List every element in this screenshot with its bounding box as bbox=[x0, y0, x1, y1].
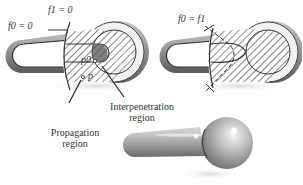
interpenetration-line2: region bbox=[92, 112, 192, 123]
label-f1-zero: f1 = 0 bbox=[48, 4, 73, 15]
diagram-canvas bbox=[0, 0, 302, 185]
right-shape bbox=[160, 21, 303, 92]
interpenetration-region-label: Interpenetration region bbox=[92, 101, 192, 123]
propagation-region-label: Propagation region bbox=[30, 127, 120, 149]
blended-result bbox=[123, 117, 253, 180]
label-p: p bbox=[88, 70, 93, 81]
label-f0-eq-f1: f0 = f1 bbox=[178, 13, 205, 24]
label-f0-zero: f0 = 0 bbox=[8, 20, 33, 31]
left-shape bbox=[6, 21, 150, 103]
propagation-line1: Propagation bbox=[30, 127, 120, 138]
interpenetration-line1: Interpenetration bbox=[92, 101, 192, 112]
label-p0: p0 bbox=[81, 54, 91, 65]
propagation-line2: region bbox=[30, 138, 120, 149]
